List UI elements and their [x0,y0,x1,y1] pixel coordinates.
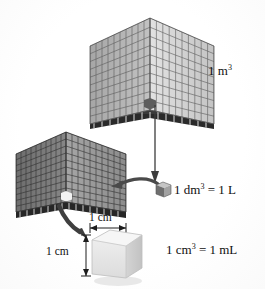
cubic-centimetre-cube [88,226,150,288]
label-cubic-centimetre-equals: = 1 mL [196,242,238,257]
label-cubic-decimetre-equals: = 1 L [204,182,236,197]
label-cubic-metre-value: 1 m [208,63,228,78]
label-cubic-decimetre: 1 dm3 = 1 L [174,183,236,196]
label-cubic-centimetre-value: 1 cm [166,242,192,257]
label-cubic-decimetre-value: 1 dm [174,182,200,197]
label-cubic-centimetre: 1 cm3 = 1 mL [166,243,237,256]
label-cubic-metre: 1 m3 [208,64,232,77]
arrow-litre-to-cube [108,172,160,198]
label-dimension-left: 1 cm [46,246,69,258]
label-dimension-top: 1 cm [89,212,112,224]
label-cubic-metre-exponent: 3 [228,63,232,72]
cube-front-face [92,240,126,278]
figure-canvas: 1 m3 1 dm3 = 1 L 1 cm3 = 1 mL 1 cm 1 cm [0,0,265,289]
litre-unit-cube [154,180,174,200]
